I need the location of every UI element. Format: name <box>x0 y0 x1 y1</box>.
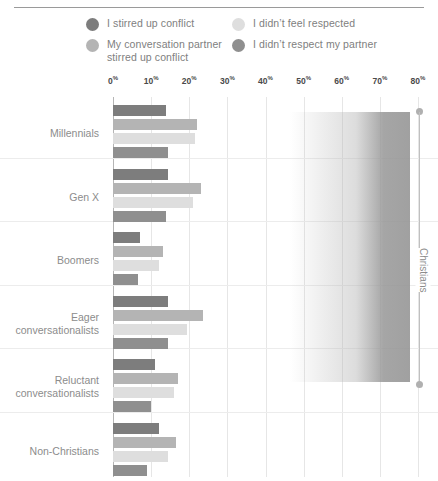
bar[interactable] <box>113 310 203 321</box>
bar-row <box>113 183 418 194</box>
bar-group: Non-Christians <box>113 423 418 479</box>
legend-swatch-circle-icon <box>232 18 245 31</box>
bar[interactable] <box>113 119 197 130</box>
bar[interactable] <box>113 183 201 194</box>
bar-row <box>113 274 418 285</box>
group-category-label: Non-Christians <box>0 444 99 457</box>
x-tick-label: 40% <box>258 75 273 86</box>
bar[interactable] <box>113 324 187 335</box>
bar-row <box>113 338 418 349</box>
x-tick-label: 10% <box>144 75 159 86</box>
x-tick-label: 0% <box>108 75 118 86</box>
bar[interactable] <box>113 232 140 243</box>
bar-group: Boomers <box>113 232 418 288</box>
bar[interactable] <box>113 197 193 208</box>
group-category-label: Boomers <box>0 254 99 267</box>
bar-row <box>113 147 418 158</box>
group-category-label: Millennials <box>0 127 99 140</box>
x-axis-tick-labels: 0%10%20%30%40%50%60%70%80% <box>113 75 418 91</box>
group-category-label: Gen X <box>0 190 99 203</box>
x-tick-label: 80% <box>411 75 426 86</box>
bar[interactable] <box>113 133 195 144</box>
bar[interactable] <box>113 274 138 285</box>
bar-row <box>113 169 418 180</box>
group-category-label: Reluctant conversationalists <box>0 374 99 400</box>
bar[interactable] <box>113 246 163 257</box>
bar-row <box>113 105 418 116</box>
bar-row <box>113 246 418 257</box>
bracket-label: Christians <box>416 248 431 292</box>
bar-row <box>113 197 418 208</box>
legend-item[interactable]: My conversation partner stirred up confl… <box>86 38 236 63</box>
bar-row <box>113 324 418 335</box>
bar-row <box>113 232 418 243</box>
bar-row <box>113 310 418 321</box>
bar-row <box>113 359 418 370</box>
legend-item-label: I didn’t respect my partner <box>253 38 377 51</box>
bar[interactable] <box>113 296 168 307</box>
legend-item[interactable]: I didn’t feel respected <box>232 17 432 32</box>
bar-row <box>113 373 418 384</box>
bar[interactable] <box>113 211 166 222</box>
chart-container: I stirred up conflictMy conversation par… <box>0 0 438 481</box>
x-tick-label: 50% <box>296 75 311 86</box>
bar[interactable] <box>113 169 168 180</box>
bar-row <box>113 387 418 398</box>
legend-column-left: I stirred up conflictMy conversation par… <box>86 17 236 69</box>
x-tick-label: 20% <box>182 75 197 86</box>
legend-item-label: My conversation partner stirred up confl… <box>107 38 222 63</box>
bar[interactable] <box>113 338 168 349</box>
x-tick-label: 60% <box>334 75 349 86</box>
legend-item[interactable]: I stirred up conflict <box>86 17 236 32</box>
bar[interactable] <box>113 437 176 448</box>
bar-row <box>113 133 418 144</box>
plot-area: 0%10%20%30%40%50%60%70%80% MillennialsGe… <box>113 97 418 477</box>
christians-bracket: Christians <box>415 108 423 388</box>
bar-row <box>113 437 418 448</box>
bar-row <box>113 401 418 412</box>
bar[interactable] <box>113 105 166 116</box>
bar[interactable] <box>113 401 151 412</box>
bar-group: Gen X <box>113 169 418 225</box>
bar-row <box>113 451 418 462</box>
legend-swatch-circle-icon <box>86 18 99 31</box>
legend-item-label: I stirred up conflict <box>107 17 194 30</box>
group-category-label: Eager conversationalists <box>0 311 99 337</box>
legend-swatch-circle-icon <box>86 39 99 52</box>
bar-row <box>113 465 418 476</box>
bar-row <box>113 119 418 130</box>
bar[interactable] <box>113 260 159 271</box>
chart-legend: I stirred up conflictMy conversation par… <box>86 17 426 69</box>
bar-row <box>113 296 418 307</box>
bar[interactable] <box>113 147 168 158</box>
bar[interactable] <box>113 423 159 434</box>
bar[interactable] <box>113 465 147 476</box>
top-divider-rule <box>14 7 424 8</box>
bar-row <box>113 211 418 222</box>
bar-group: Millennials <box>113 105 418 161</box>
legend-item[interactable]: I didn’t respect my partner <box>232 38 432 53</box>
legend-item-label: I didn’t feel respected <box>253 17 355 30</box>
x-tick-label: 70% <box>372 75 387 86</box>
legend-swatch-circle-icon <box>232 39 245 52</box>
legend-column-right: I didn’t feel respectedI didn’t respect … <box>232 17 432 59</box>
bar[interactable] <box>113 451 168 462</box>
bar[interactable] <box>113 387 174 398</box>
x-tick-label: 30% <box>220 75 235 86</box>
bar-row <box>113 423 418 434</box>
bar-group: Eager conversationalists <box>113 296 418 352</box>
bar[interactable] <box>113 373 178 384</box>
bar-row <box>113 260 418 271</box>
bar-group: Reluctant conversationalists <box>113 359 418 415</box>
bar[interactable] <box>113 359 155 370</box>
